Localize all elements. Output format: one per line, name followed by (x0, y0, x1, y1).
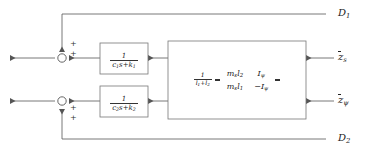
summing-junction-1-circle (58, 54, 66, 62)
matrix-cell-r0c0-second-sub: 2 (240, 73, 243, 79)
transfer-block-1-expression: 1 c1s+k1 (100, 50, 148, 69)
z-psi-base: z (338, 94, 343, 105)
z-s-overbar (338, 51, 341, 52)
tf1-denominator: c1s+k1 (110, 61, 138, 70)
z-psi-overbar-group: z (338, 95, 343, 105)
block-diagram: + + + + 1 c1s+k1 1 c2s+k2 1 l1+l2 msl2 (0, 0, 369, 153)
d1-subscript: 1 (346, 12, 350, 20)
matrix-cell-r1c0: msl1 (227, 82, 243, 91)
tf1-den-mid: s+ (119, 61, 128, 69)
matrix-cell-r0c0: msl2 (227, 69, 243, 78)
z-s-subscript: s (343, 56, 347, 64)
matrix-scalar-l2-sub: 2 (207, 82, 210, 87)
matrix-bracket-right (275, 79, 280, 81)
tf2-den-mid: s+ (119, 104, 128, 112)
summing-junction-2-sign-bottom: + (70, 114, 77, 122)
matrix-entries: msl2 Iψ msl1 −Iψ (223, 67, 273, 93)
matrix-cell-r1c1-base-sub: ψ (264, 85, 268, 91)
summing-junction-2-circle (58, 97, 66, 105)
matrix-scalar-factor: 1 l1+l2 (194, 72, 212, 88)
matrix-block-expression: 1 l1+l2 msl2 Iψ msl1 −Iψ (168, 41, 306, 119)
disturbance-label-d1: D1 (338, 8, 350, 19)
summing-junction-2-sign-right: + (70, 104, 77, 112)
tf2-numerator: 1 (110, 95, 138, 104)
z-s-overbar-group: z (338, 52, 343, 62)
z-psi-overbar (338, 94, 341, 95)
matrix-cell-r1c1-sign: − (254, 82, 261, 91)
transfer-block-2-expression: 1 c2s+k2 (100, 93, 148, 112)
summing-junction-1-sign-top: + (70, 40, 77, 48)
d2-subscript: 2 (346, 137, 350, 145)
matrix-cell-r0c1-base-sub: ψ (261, 73, 265, 79)
matrix-scalar-denominator: l1+l2 (194, 80, 212, 88)
z-s-base: z (338, 51, 343, 62)
tf2-denominator: c2s+k2 (110, 104, 138, 113)
matrix-cell-r1c1: −Iψ (254, 82, 268, 91)
output-label-z-psi: z ψ (338, 95, 349, 106)
output-label-z-s: z s (338, 52, 347, 63)
z-psi-subscript: ψ (343, 99, 348, 107)
tf1-numerator: 1 (110, 52, 138, 61)
tf1-den-k-sub: 1 (133, 64, 136, 69)
summing-junction-1-sign-right: + (70, 50, 77, 58)
d1-base: D (338, 7, 346, 18)
matrix-cell-r1c0-second-sub: 1 (240, 85, 243, 91)
tf2-den-k-sub: 2 (133, 107, 136, 112)
matrix-bracket-left (215, 79, 220, 81)
d2-base: D (338, 132, 346, 143)
disturbance-label-d2: D2 (338, 133, 350, 144)
matrix-cell-r0c1: Iψ (254, 69, 268, 78)
